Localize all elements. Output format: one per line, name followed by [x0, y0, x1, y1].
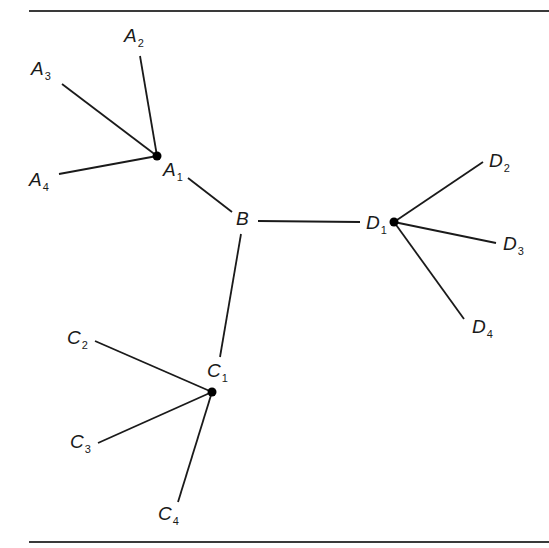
node-subscript: 2 [138, 37, 144, 49]
edges-layer [0, 0, 549, 548]
node-label-a3: A3 [31, 59, 51, 78]
node-subscript: 4 [487, 328, 493, 340]
node-dot-a1 [153, 152, 162, 161]
node-subscript: 2 [82, 339, 88, 351]
edge-a1-a2 [140, 56, 157, 156]
edge-a1-a3 [62, 84, 157, 156]
node-letter: D [503, 233, 517, 254]
edge-b-c1 [220, 234, 241, 357]
node-letter: C [207, 360, 221, 381]
edge-c1-c3 [98, 392, 212, 443]
edge-c1-c2 [95, 341, 212, 392]
node-subscript: 4 [43, 181, 49, 193]
node-letter: A [31, 58, 44, 79]
node-letter: A [124, 25, 137, 46]
node-label-d2: D2 [489, 151, 510, 170]
node-label-c3: C3 [70, 432, 91, 451]
tree-diagram: A1A2A3A4BD1D2D3D4C1C2C3C4 [0, 0, 549, 548]
node-letter: A [29, 169, 42, 190]
node-letter: C [70, 431, 84, 452]
node-label-c4: C4 [158, 504, 179, 523]
node-subscript: 2 [504, 162, 510, 174]
node-label-d4: D4 [472, 317, 493, 336]
node-subscript: 3 [45, 70, 51, 82]
node-letter: D [489, 150, 503, 171]
node-letter: B [236, 208, 249, 229]
edge-c1-c4 [178, 392, 212, 502]
node-letter: A [163, 159, 176, 180]
node-label-d3: D3 [503, 234, 524, 253]
node-letter: C [158, 503, 172, 524]
edge-a1-a4 [59, 156, 157, 174]
node-letter: D [472, 316, 486, 337]
node-subscript: 3 [518, 245, 524, 257]
edge-d1-d4 [394, 222, 464, 319]
node-label-d1: D1 [366, 213, 387, 232]
node-subscript: 1 [222, 372, 228, 384]
node-subscript: 4 [173, 515, 179, 527]
node-label-c2: C2 [67, 328, 88, 347]
node-dot-d1 [390, 218, 399, 227]
node-letter: D [366, 212, 380, 233]
edge-a1-b [188, 178, 232, 212]
node-subscript: 1 [177, 171, 183, 183]
node-letter: C [67, 327, 81, 348]
node-subscript: 1 [381, 224, 387, 236]
edge-d1-d3 [394, 222, 496, 243]
node-subscript: 3 [85, 443, 91, 455]
node-label-a2: A2 [124, 26, 144, 45]
node-label-c1: C1 [207, 361, 228, 380]
node-label-b: B [236, 209, 249, 228]
edge-b-d1 [258, 221, 360, 222]
node-label-a4: A4 [29, 170, 49, 189]
node-label-a1: A1 [163, 160, 183, 179]
edge-d1-d2 [394, 162, 483, 222]
node-dot-c1 [208, 388, 217, 397]
